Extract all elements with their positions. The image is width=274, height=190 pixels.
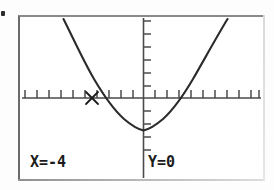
frame-right-edge bbox=[263, 15, 265, 181]
frame-bottom-edge bbox=[18, 179, 265, 181]
trace-x-readout: X=-4 bbox=[30, 155, 66, 170]
graph-screen-root: X=-4 Y=0 bbox=[0, 0, 274, 190]
screen-edge-artifact bbox=[1, 11, 5, 16]
trace-y-readout: Y=0 bbox=[148, 155, 175, 170]
